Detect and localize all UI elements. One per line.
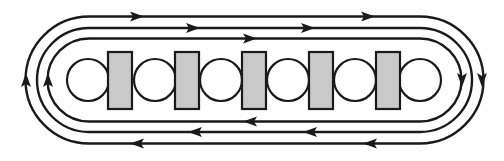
circle-element — [399, 59, 441, 101]
circle-element — [334, 59, 376, 101]
circle-element — [67, 59, 109, 101]
diagram-canvas: Three concentric stadium-shaped loops wi… — [0, 0, 504, 161]
circle-element — [267, 59, 309, 101]
circle-element — [134, 59, 176, 101]
shaded-block — [242, 52, 266, 109]
shaded-block — [175, 52, 199, 109]
shaded-block — [309, 52, 333, 109]
circle-element — [200, 59, 242, 101]
circulation-diagram — [0, 0, 504, 161]
arrow-down-icon — [477, 73, 487, 87]
shaded-block — [108, 52, 132, 109]
shapes-row — [67, 52, 441, 109]
shaded-block — [376, 52, 400, 109]
